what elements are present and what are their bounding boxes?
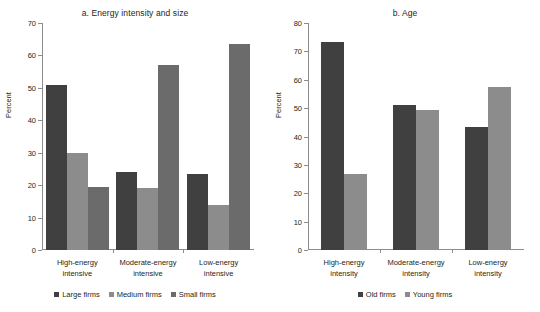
panel-b-bar-groups: [308, 23, 524, 250]
legend-label: Young firms: [413, 290, 452, 299]
bar: [137, 188, 158, 250]
legend-label: Large firms: [62, 290, 100, 299]
bar: [46, 85, 67, 250]
y-tick-label: 60: [28, 51, 36, 60]
legend-label: Medium firms: [117, 290, 162, 299]
legend-swatch-icon: [54, 292, 59, 297]
bar-group: [380, 23, 452, 250]
panel-a-y-axis-label: Percent: [4, 92, 13, 118]
y-tick-label: 10: [294, 217, 302, 226]
y-tick-label: 20: [28, 181, 36, 190]
panel-b-y-axis-label: Percent: [274, 92, 283, 118]
category-label-line: Moderate-energy: [380, 258, 452, 269]
legend-swatch-icon: [109, 292, 114, 297]
bar: [416, 110, 439, 250]
legend-swatch-icon: [171, 292, 176, 297]
panel-b-age: b. Age Percent 01020304050607080 High-en…: [270, 0, 540, 312]
bar-group: [183, 23, 254, 250]
bar: [67, 153, 88, 250]
category-label: Moderate-energyintensity: [380, 258, 452, 279]
legend-item[interactable]: Large firms: [54, 290, 100, 299]
bars-container: [42, 23, 113, 250]
category-label: High-energyintensive: [42, 258, 113, 279]
panel-a-category-labels: High-energyintensiveModerate-energyinten…: [42, 258, 254, 292]
y-tick-label: 50: [28, 83, 36, 92]
panel-a-energy-intensity-and-size: a. Energy intensity and size Percent 010…: [0, 0, 270, 312]
panel-a-plot-area: 010203040506070: [42, 23, 254, 250]
category-label-line: intensity: [380, 269, 452, 280]
category-label-line: intensity: [452, 269, 524, 280]
category-label: High-energyintensity: [308, 258, 380, 279]
y-tick-label: 70: [294, 47, 302, 56]
x-tick-mark: [113, 250, 114, 253]
panel-a-bar-groups: [42, 23, 254, 250]
category-label-line: intensity: [308, 269, 380, 280]
legend-item[interactable]: Medium firms: [109, 290, 162, 299]
bar: [393, 105, 416, 250]
y-tick-label: 80: [294, 19, 302, 28]
bar-group: [452, 23, 524, 250]
panel-b-category-labels: High-energyintensityModerate-energyinten…: [308, 258, 524, 292]
figure-two-panel-bar-charts: a. Energy intensity and size Percent 010…: [0, 0, 540, 312]
y-tick-label: 50: [294, 104, 302, 113]
bar: [488, 87, 511, 250]
bar-group: [42, 23, 113, 250]
y-tick-label: 0: [32, 246, 36, 255]
y-tick-label: 70: [28, 19, 36, 28]
panel-b-title: b. Age: [270, 8, 540, 18]
bar: [344, 174, 367, 250]
category-label: Low-energyintensity: [452, 258, 524, 279]
bars-container: [183, 23, 254, 250]
legend-label: Old firms: [366, 290, 396, 299]
x-tick-mark: [183, 250, 184, 253]
category-label: Moderate-energyintensive: [113, 258, 184, 279]
legend-swatch-icon: [358, 292, 363, 297]
category-label-line: intensive: [183, 269, 254, 280]
panel-a-legend: Large firmsMedium firmsSmall firms: [0, 290, 270, 299]
category-label-line: High-energy: [308, 258, 380, 269]
bars-container: [113, 23, 184, 250]
bar: [88, 187, 109, 250]
bar: [187, 174, 208, 250]
legend-swatch-icon: [405, 292, 410, 297]
y-tick-label: 30: [294, 160, 302, 169]
category-label: Low-energyintensive: [183, 258, 254, 279]
bar: [321, 42, 344, 250]
legend-item[interactable]: Young firms: [405, 290, 452, 299]
legend-item[interactable]: Old firms: [358, 290, 396, 299]
bar: [465, 127, 488, 250]
y-tick-label: 40: [28, 116, 36, 125]
y-tick-mark: [38, 250, 42, 251]
category-label-line: Moderate-energy: [113, 258, 184, 269]
y-tick-label: 30: [28, 148, 36, 157]
x-tick-mark: [380, 250, 381, 253]
panel-b-legend: Old firmsYoung firms: [270, 290, 540, 299]
bars-container: [308, 23, 380, 250]
category-label-line: High-energy: [42, 258, 113, 269]
legend-item[interactable]: Small firms: [171, 290, 216, 299]
y-tick-label: 40: [294, 132, 302, 141]
y-tick-label: 0: [298, 246, 302, 255]
bars-container: [452, 23, 524, 250]
y-tick-label: 10: [28, 213, 36, 222]
legend-label: Small firms: [179, 290, 216, 299]
category-label-line: Low-energy: [183, 258, 254, 269]
category-label-line: intensive: [113, 269, 184, 280]
bar-group: [113, 23, 184, 250]
category-label-line: intensive: [42, 269, 113, 280]
bar: [158, 65, 179, 250]
y-tick-mark: [304, 250, 308, 251]
x-tick-mark: [452, 250, 453, 253]
panel-b-plot-area: 01020304050607080: [308, 23, 524, 250]
y-tick-label: 20: [294, 189, 302, 198]
bar-group: [308, 23, 380, 250]
y-tick-label: 60: [294, 75, 302, 84]
bar: [116, 172, 137, 250]
panel-a-title: a. Energy intensity and size: [0, 8, 270, 18]
bars-container: [380, 23, 452, 250]
category-label-line: Low-energy: [452, 258, 524, 269]
bar: [229, 44, 250, 250]
bar: [208, 205, 229, 250]
